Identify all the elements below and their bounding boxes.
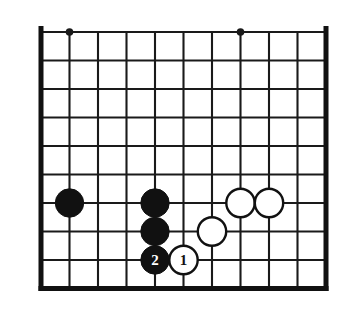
- white-stone-move-1[interactable]: [169, 246, 197, 274]
- black-stone-upper[interactable]: [141, 189, 169, 217]
- white-stone-right-inner[interactable]: [226, 189, 254, 217]
- black-stone-left[interactable]: [55, 189, 83, 217]
- white-stone-center[interactable]: [198, 217, 226, 245]
- star-point: [237, 28, 245, 36]
- go-board-grid[interactable]: [0, 0, 339, 335]
- black-stone-move-2[interactable]: [141, 246, 169, 274]
- star-point: [66, 28, 74, 36]
- go-board-diagram: 12: [0, 0, 339, 335]
- black-stone-middle[interactable]: [141, 217, 169, 245]
- white-stone-right-outer[interactable]: [255, 189, 283, 217]
